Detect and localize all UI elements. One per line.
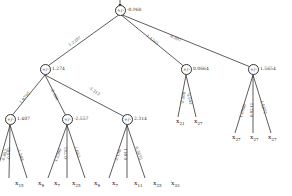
node-value-l1-c: 1.5654 [260, 67, 276, 72]
leaf-node: x25 [72, 180, 80, 188]
leaf-node: x11 [134, 180, 142, 188]
tree-node-l1-a: +/- [40, 64, 51, 75]
tree-node-l2-a: +/- [5, 114, 16, 125]
tree-node-l1-b: +/- [181, 64, 192, 75]
edge-weight: -0.743 [64, 147, 68, 160]
leaf-node: x25 [153, 180, 161, 188]
tree-node-root: +/- [115, 5, 126, 16]
leaf-node: x27 [250, 134, 258, 142]
node-value-l2-b: -2.557 [74, 117, 88, 122]
node-value-l1-a: 1.274 [52, 67, 65, 72]
tree-node-l1-c: +/- [248, 64, 259, 75]
node-value-l2-c: 2.314 [134, 117, 147, 122]
node-value-l2-a: 1.407 [17, 117, 30, 122]
leaf-node: x21 [176, 118, 184, 126]
node-value-root: -0.968 [127, 8, 141, 13]
tree-edges [0, 0, 292, 196]
edge-weight: -0.995 [7, 147, 11, 160]
leaf-node: x27 [194, 118, 202, 126]
edge-weight: 0.9212 [250, 103, 254, 117]
leaf-node: x27 [232, 134, 240, 142]
tree-node-l2-b: +/- [62, 114, 73, 125]
tree-node-l2-c: +/- [122, 114, 133, 125]
leaf-node: x15 [15, 180, 23, 188]
leaf-node: x9 [38, 180, 44, 188]
node-value-l1-b: 0.0664 [193, 67, 209, 72]
edge-weight: 0.641 [124, 149, 128, 160]
leaf-node: x9 [94, 180, 100, 188]
leaf-node: x33 [171, 180, 179, 188]
leaf-node: x7 [54, 180, 60, 188]
leaf-node: x27 [268, 134, 276, 142]
leaf-node: x7 [112, 180, 118, 188]
